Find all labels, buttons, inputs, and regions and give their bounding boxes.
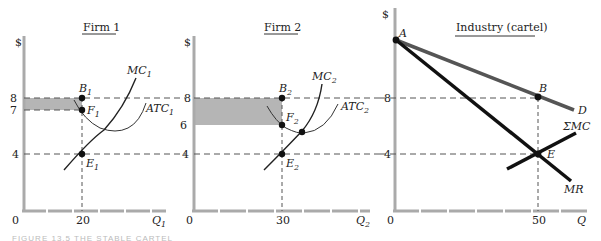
tick-4-firm-2: 4: [182, 148, 189, 161]
label-mc2: MC2: [311, 70, 337, 85]
tick-8-firm-2: 8: [184, 92, 191, 105]
cartel-figure: $ Firm 1 8 7 4 0 20 Q1 B1 F1 E1 MC1 ATC1…: [0, 0, 601, 241]
point-f2: [279, 122, 285, 128]
label-b2: B2: [278, 82, 292, 97]
label-f1: F1: [86, 104, 100, 119]
point-b1: [79, 95, 85, 101]
profit-area-firm-2: [194, 98, 282, 125]
label-b: B: [538, 82, 547, 95]
label-a: A: [398, 27, 407, 40]
marginal-revenue-curve: [396, 40, 571, 181]
atc1-curve: [74, 100, 146, 131]
tick-0-firm-2: 0: [186, 214, 193, 227]
label-atc1: ATC1: [145, 102, 174, 117]
label-e1: E1: [85, 157, 99, 172]
figure-caption: FIGURE 13.5 THE STABLE CARTEL: [12, 234, 173, 241]
label-e2: E2: [285, 157, 299, 172]
title-industry: Industry (cartel): [456, 21, 548, 34]
label-e: E: [546, 148, 555, 161]
point-e1: [79, 151, 85, 157]
label-f2: F2: [285, 111, 299, 126]
tick-0-industry: 0: [387, 214, 394, 227]
panel-firm-2: $ Firm 2 8 6 4 0 30 Q2 B2 F2 E2 MC2 ATC2: [180, 21, 380, 229]
label-mr: MR: [563, 183, 584, 196]
label-b1: B1: [78, 82, 92, 97]
y-label-firm-1: $: [15, 36, 22, 49]
tick-20-firm-1: 20: [76, 214, 90, 227]
profit-area-firm-1: [24, 98, 82, 110]
demand-curve: [396, 40, 574, 110]
tick-7-firm-1: 7: [10, 104, 17, 117]
tick-4-industry: 4: [384, 148, 391, 161]
point-b2: [279, 95, 285, 101]
panel-firm-1: $ Firm 1 8 7 4 0 20 Q1 B1 F1 E1 MC1 ATC1: [10, 21, 186, 229]
point-e2: [279, 151, 285, 157]
x-label-industry: Q: [577, 214, 586, 227]
point-atc2-min: [299, 129, 305, 135]
point-f1: [79, 107, 85, 113]
label-atc2: ATC2: [340, 100, 369, 115]
point-e: [535, 151, 542, 158]
x-label-firm-2: Q2: [356, 214, 370, 229]
tick-30-firm-2: 30: [276, 214, 290, 227]
label-sum-mc: ΣMC: [562, 120, 591, 133]
tick-6-firm-2: 6: [180, 119, 187, 132]
label-mc1: MC1: [126, 64, 152, 79]
tick-8-industry: 8: [384, 92, 391, 105]
y-label-firm-2: $: [184, 36, 191, 49]
x-label-firm-1: Q1: [152, 214, 166, 229]
y-label-industry: $: [382, 8, 389, 21]
title-firm-2: Firm 2: [264, 21, 301, 34]
tick-50-industry: 50: [532, 214, 546, 227]
tick-0-firm-1: 0: [12, 214, 19, 227]
panel-industry: $ Industry (cartel) 8 4 0 50 Q A B E D Σ…: [380, 8, 591, 227]
tick-4-firm-1: 4: [12, 148, 19, 161]
title-firm-1: Firm 1: [83, 21, 120, 34]
mc1-curve: [64, 78, 136, 170]
label-d: D: [577, 104, 587, 117]
